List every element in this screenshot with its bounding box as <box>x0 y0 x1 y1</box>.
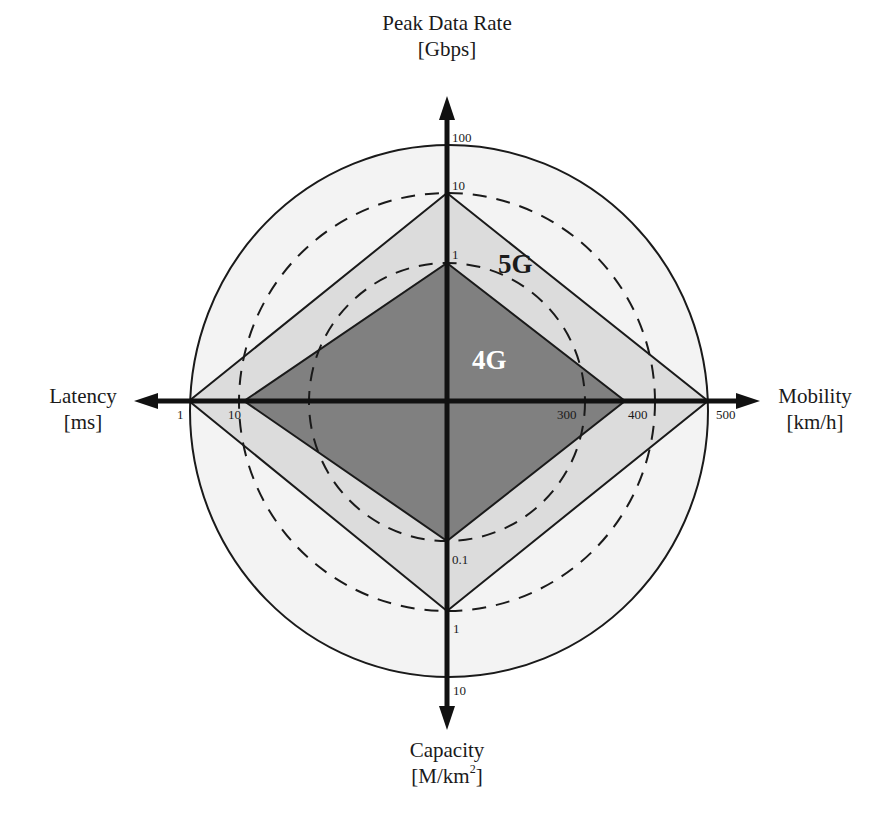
axis-name: Latency <box>28 383 138 409</box>
axis-title-capacity: Capacity [M/km2] <box>367 737 527 789</box>
arrow-up-icon <box>439 96 455 120</box>
tick-top-10: 10 <box>452 179 465 193</box>
tick-right-500: 500 <box>716 408 736 422</box>
tick-bottom-0-1: 0.1 <box>452 553 468 567</box>
axis-unit: [M/km2] <box>367 763 527 789</box>
axis-unit: [ms] <box>28 409 138 435</box>
axis-unit: [Gbps] <box>347 36 547 62</box>
tick-right-400: 400 <box>628 408 648 422</box>
series-label-4g: 4G <box>472 346 507 374</box>
tick-top-1: 1 <box>452 248 459 262</box>
axis-name: Capacity <box>367 737 527 763</box>
tick-right-300: 300 <box>557 408 577 422</box>
axis-name: Mobility <box>760 383 870 409</box>
tick-bottom-10: 10 <box>453 684 466 698</box>
tick-left-10: 10 <box>228 408 241 422</box>
tick-left-1: 1 <box>177 408 184 422</box>
axis-title-latency: Latency [ms] <box>28 383 138 435</box>
tick-bottom-1: 1 <box>453 622 460 636</box>
axis-title-peak-data-rate: Peak Data Rate [Gbps] <box>347 10 547 62</box>
arrow-right-icon <box>736 393 760 409</box>
arrow-down-icon <box>439 706 455 730</box>
axis-unit: [km/h] <box>760 409 870 435</box>
series-label-5g: 5G <box>498 250 533 278</box>
axis-name: Peak Data Rate <box>347 10 547 36</box>
tick-top-100: 100 <box>452 131 472 145</box>
axis-title-mobility: Mobility [km/h] <box>760 383 870 435</box>
